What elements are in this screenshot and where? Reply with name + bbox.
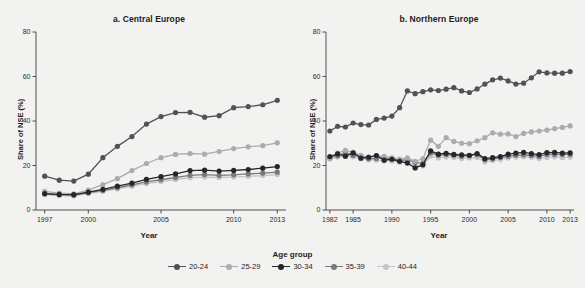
plot-area-central-europe: 02040608019972000200520102013	[6, 24, 292, 236]
svg-text:2000: 2000	[462, 216, 478, 223]
legend-label: 30-34	[293, 262, 312, 271]
svg-text:2010: 2010	[539, 216, 555, 223]
series-25-29	[42, 140, 280, 196]
series-20-24	[42, 98, 280, 184]
series-20-24	[327, 69, 572, 134]
panel-title-a: a. Central Europe	[6, 14, 292, 24]
legend-label: 20-24	[189, 262, 208, 271]
x-axis-label-a: Year	[6, 231, 292, 240]
legend-items: 20-2425-2930-3435-3940-44	[0, 262, 585, 271]
svg-text:40: 40	[313, 117, 321, 124]
svg-text:1982: 1982	[322, 216, 338, 223]
svg-text:60: 60	[23, 73, 31, 80]
svg-text:80: 80	[313, 28, 321, 35]
legend-title: Age group	[0, 250, 585, 259]
svg-text:2010: 2010	[226, 216, 242, 223]
legend-marker-icon	[272, 262, 290, 271]
legend-item-35-39[interactable]: 35-39	[325, 262, 365, 271]
legend-item-20-24[interactable]: 20-24	[168, 262, 208, 271]
svg-text:1995: 1995	[423, 216, 439, 223]
legend-marker-icon	[377, 262, 395, 271]
svg-text:20: 20	[313, 162, 321, 169]
legend-label: 25-29	[241, 262, 260, 271]
svg-text:1985: 1985	[345, 216, 361, 223]
legend-label: 35-39	[346, 262, 365, 271]
svg-text:0: 0	[27, 206, 31, 213]
legend-item-30-34[interactable]: 30-34	[272, 262, 312, 271]
x-axis-label-b: Year	[298, 231, 580, 240]
legend-item-25-29[interactable]: 25-29	[220, 262, 260, 271]
cropped-caption	[30, 0, 550, 4]
svg-text:2005: 2005	[500, 216, 516, 223]
svg-text:2013: 2013	[269, 216, 285, 223]
svg-text:2000: 2000	[81, 216, 97, 223]
legend-label: 40-44	[398, 262, 417, 271]
legend-marker-icon	[325, 262, 343, 271]
svg-text:40: 40	[23, 117, 31, 124]
svg-text:0: 0	[317, 206, 321, 213]
legend-item-40-44[interactable]: 40-44	[377, 262, 417, 271]
plot-area-northern-europe: 0204060801982198519901995200020052010201…	[298, 24, 580, 236]
svg-text:2005: 2005	[153, 216, 169, 223]
figure-container: a. Central Europe Share of NSE (%) b. No…	[0, 0, 585, 288]
svg-text:60: 60	[313, 73, 321, 80]
svg-text:1997: 1997	[37, 216, 53, 223]
svg-text:2013: 2013	[562, 216, 578, 223]
svg-text:80: 80	[23, 28, 31, 35]
legend-marker-icon	[220, 262, 238, 271]
svg-text:20: 20	[23, 162, 31, 169]
svg-text:1990: 1990	[384, 216, 400, 223]
legend-marker-icon	[168, 262, 186, 271]
panel-title-b: b. Northern Europe	[298, 14, 580, 24]
legend: Age group 20-2425-2930-3435-3940-44	[0, 250, 585, 288]
